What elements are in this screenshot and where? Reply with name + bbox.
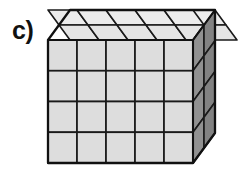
front-cell — [106, 71, 135, 102]
cube-top-face-aligned — [48, 10, 215, 40]
figure-container: c) — [0, 0, 240, 172]
front-cell — [135, 40, 164, 71]
front-cell — [164, 102, 193, 133]
front-cell — [164, 132, 193, 163]
front-cell — [106, 102, 135, 133]
front-cell — [77, 40, 106, 71]
cube-diagram — [0, 0, 240, 172]
front-cell — [48, 71, 77, 102]
front-cell — [164, 71, 193, 102]
front-cell — [164, 40, 193, 71]
front-cell — [77, 71, 106, 102]
front-cell — [48, 40, 77, 71]
top-face-alignment-group — [48, 10, 215, 40]
front-cell — [77, 132, 106, 163]
front-cell — [77, 102, 106, 133]
front-cell — [106, 40, 135, 71]
front-cell — [135, 102, 164, 133]
cube-front-face — [48, 40, 193, 163]
front-cell — [135, 132, 164, 163]
front-cell — [135, 71, 164, 102]
front-cell — [48, 132, 77, 163]
front-cell — [48, 102, 77, 133]
front-cell — [106, 132, 135, 163]
